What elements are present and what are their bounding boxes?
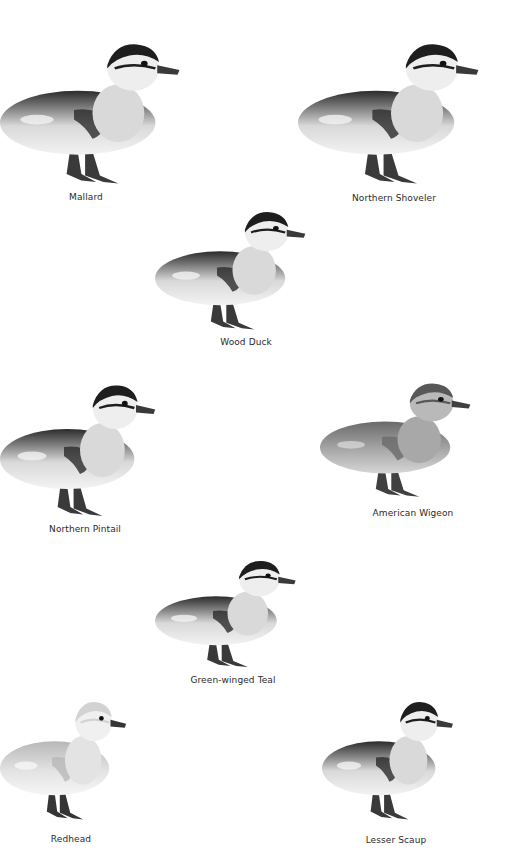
duckling-icon <box>155 200 310 335</box>
species-label: Redhead <box>51 834 91 844</box>
duckling-icon <box>320 372 475 502</box>
duckling-icon <box>155 550 300 672</box>
duckling-illustration <box>322 690 457 825</box>
duckling-illustration <box>0 30 185 190</box>
duckling-illustration <box>155 550 300 672</box>
species-label: American Wigeon <box>373 508 454 518</box>
species-label: Northern Shoveler <box>352 193 436 203</box>
duckling-illustration <box>298 30 484 190</box>
duckling-illustration <box>320 372 475 502</box>
duckling-illustration <box>0 372 160 522</box>
duckling-icon <box>298 30 484 190</box>
species-label: Green-winged Teal <box>190 675 275 685</box>
species-label: Northern Pintail <box>49 524 121 534</box>
duckling-icon <box>0 30 185 190</box>
species-label: Mallard <box>69 192 103 202</box>
duckling-icon <box>0 372 160 522</box>
species-label: Lesser Scaup <box>366 835 427 845</box>
duckling-icon <box>0 690 130 825</box>
species-label: Wood Duck <box>220 337 272 347</box>
duckling-illustration <box>0 690 130 825</box>
duckling-icon <box>322 690 457 825</box>
duckling-illustration <box>155 200 310 335</box>
